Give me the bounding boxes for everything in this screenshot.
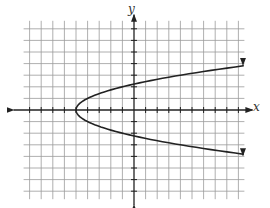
y-axis-label: y — [128, 2, 135, 16]
coordinate-plane — [0, 0, 270, 208]
axes — [14, 15, 253, 205]
x-axis-label: x — [253, 100, 260, 114]
